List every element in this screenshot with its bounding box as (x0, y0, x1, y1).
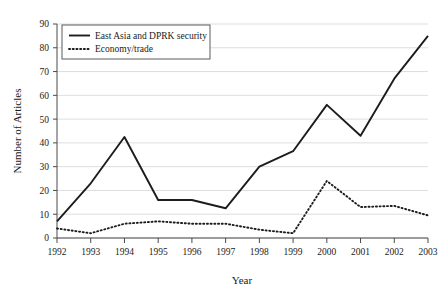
y-tick-label-90: 90 (40, 19, 50, 29)
x-tick-marks-group (57, 238, 428, 243)
x-tick-label-2000: 2000 (317, 247, 336, 257)
x-tick-label-2003: 2003 (419, 247, 438, 257)
legend-label-economy-trade: Economy/trade (95, 44, 153, 54)
y-tick-marks-group (53, 24, 57, 238)
chart-figure: 0102030405060708090 19921993199419951996… (0, 0, 443, 297)
y-axis-title: Number of Articles (11, 89, 23, 174)
x-tick-label-1992: 1992 (48, 247, 67, 257)
y-tick-label-0: 0 (44, 233, 49, 243)
line-chart: 0102030405060708090 19921993199419951996… (0, 0, 443, 297)
x-tick-label-1995: 1995 (149, 247, 168, 257)
legend-label-east-asia-dprk-security: East Asia and DPRK security (95, 31, 207, 41)
y-tick-label-60: 60 (40, 91, 50, 101)
x-tick-label-1993: 1993 (81, 247, 100, 257)
x-tick-labels-group: 1992199319941995199619971998199920002001… (48, 247, 438, 257)
y-tick-label-40: 40 (40, 138, 50, 148)
x-tick-label-1996: 1996 (182, 247, 201, 257)
x-tick-label-1999: 1999 (284, 247, 303, 257)
y-tick-label-20: 20 (40, 186, 50, 196)
y-tick-label-10: 10 (40, 210, 50, 220)
chart-legend: East Asia and DPRK security Economy/trad… (62, 25, 210, 59)
y-tick-labels-group: 0102030405060708090 (40, 19, 50, 243)
x-tick-label-1997: 1997 (216, 247, 235, 257)
y-tick-label-30: 30 (40, 162, 50, 172)
x-tick-label-1998: 1998 (250, 247, 269, 257)
x-tick-label-2002: 2002 (385, 247, 404, 257)
x-tick-label-2001: 2001 (351, 247, 370, 257)
x-axis-title: Year (232, 274, 253, 286)
series-line-east-asia-dprk-security (57, 36, 428, 221)
y-tick-label-80: 80 (40, 43, 50, 53)
x-tick-label-1994: 1994 (115, 247, 134, 257)
y-tick-label-50: 50 (40, 115, 50, 125)
y-tick-label-70: 70 (40, 67, 50, 77)
